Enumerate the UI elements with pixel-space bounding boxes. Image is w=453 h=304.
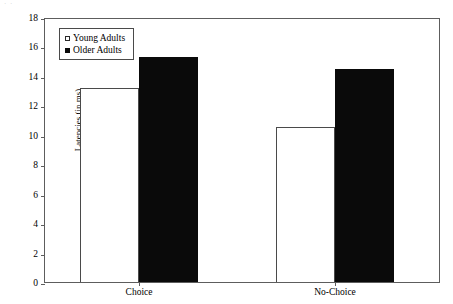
- bar-choice-young-adults: [80, 88, 139, 282]
- y-tick-mark: [41, 78, 45, 79]
- y-tick-mark: [41, 137, 45, 138]
- bar-no-choice-young-adults: [276, 127, 335, 282]
- legend-swatch-open-square-icon: [65, 36, 70, 41]
- plot-area: Latencies (in ms) 0 2 4 6 8 10 12: [44, 18, 440, 283]
- legend-item-young-adults: Young Adults: [65, 32, 125, 44]
- y-tick-mark: [41, 284, 45, 285]
- legend-label-young-adults: Young Adults: [73, 32, 125, 44]
- y-tick-mark: [41, 107, 45, 108]
- y-tick-label: 12: [29, 100, 39, 113]
- y-tick-label: 18: [29, 12, 39, 25]
- y-tick-label: 10: [29, 130, 39, 143]
- y-tick-label: 8: [33, 159, 38, 172]
- legend-label-older-adults: Older Adults: [73, 44, 122, 56]
- bar-choice-older-adults: [139, 57, 198, 282]
- y-tick-mark: [41, 255, 45, 256]
- y-tick-label: 16: [29, 41, 39, 54]
- x-category-label-no-choice: No-Choice: [314, 282, 356, 297]
- legend-swatch-filled-square-icon: [65, 48, 70, 53]
- x-category-label-choice: Choice: [126, 282, 153, 297]
- y-tick-label: 4: [33, 218, 38, 231]
- y-tick-label: 2: [33, 248, 38, 261]
- legend: Young Adults Older Adults: [59, 28, 134, 60]
- y-tick-label: 6: [33, 189, 38, 202]
- y-tick-mark: [41, 19, 45, 20]
- legend-item-older-adults: Older Adults: [65, 44, 125, 56]
- y-tick-mark: [41, 48, 45, 49]
- y-tick-mark: [41, 196, 45, 197]
- y-tick-mark: [41, 166, 45, 167]
- bar-no-choice-older-adults: [335, 69, 394, 283]
- bar-chart: · · Latencies (in ms) 0 2 4 6 8 10: [0, 0, 453, 304]
- y-tick-label: 0: [33, 277, 38, 290]
- y-tick-label: 14: [29, 71, 39, 84]
- scan-artifact: · ·: [4, 0, 13, 8]
- y-tick-mark: [41, 225, 45, 226]
